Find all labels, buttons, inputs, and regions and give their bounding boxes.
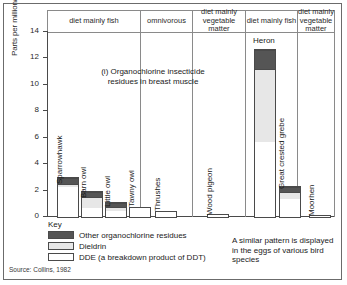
y-tick-label: 6	[35, 133, 39, 141]
bar-thrushes[interactable]	[155, 211, 177, 218]
y-tick-6: 6	[43, 137, 48, 138]
y-tick-label: 14	[30, 27, 39, 35]
y-tick-label: 2	[35, 186, 39, 194]
group-header-diet-mainly-fish-1: diet mainly fish	[47, 10, 140, 32]
bar-label-sparrowhawk: Sparrowhawk	[56, 136, 64, 184]
y-tick-0: 0	[43, 216, 48, 217]
group-header-label: diet mainly fish	[69, 17, 119, 25]
legend-item-dieldrin[interactable]: Dieldrin	[48, 241, 206, 251]
group-header-label: diet mainly vegetable matter	[298, 8, 334, 33]
bar-heron[interactable]	[254, 49, 276, 218]
bar-segment-dde	[208, 215, 228, 217]
bar-segment-dde	[310, 216, 330, 217]
bar-label-wood-pigeon: Wood pigeon	[206, 168, 214, 215]
y-tick-label: 4	[35, 159, 39, 167]
bar-segment-dde	[130, 208, 150, 217]
group-header-label: omnivorous	[147, 17, 186, 25]
bar-segment-dde	[82, 208, 102, 217]
side-note: A similar pattern is displayed in the eg…	[232, 236, 336, 265]
bar-segment-other	[255, 50, 275, 69]
y-tick-12: 12	[43, 57, 48, 58]
bar-label-heron: Heron	[253, 37, 275, 45]
plot-area: 14 12 10 8 6 4 2 0 (i) Organochlorine in…	[47, 31, 335, 219]
y-tick-label: 10	[30, 80, 39, 88]
bar-segment-dieldrin	[280, 192, 300, 199]
bar-great-crested-grebe[interactable]	[279, 186, 301, 218]
y-tick-label: 0	[35, 212, 39, 220]
group-header-omnivorous: omnivorous	[140, 10, 192, 32]
group-header-label: diet mainly fish	[247, 17, 297, 25]
y-axis-title: Parts per million/ppm by weight	[10, 0, 19, 56]
legend-title: Key	[48, 220, 206, 229]
source-caption: Source: Collins, 1982	[9, 266, 71, 273]
y-tick-4: 4	[43, 163, 48, 164]
y-tick-label: 12	[30, 53, 39, 61]
bar-label-tawny-owl: Tawny owl	[128, 170, 136, 207]
bar-label-thrushes: Thrushes	[154, 178, 162, 211]
legend: Key Other organochlorine residues Dieldr…	[48, 220, 206, 263]
bar-segment-dieldrin	[82, 197, 102, 209]
y-tick-14: 14	[43, 31, 48, 32]
bar-tawny-owl[interactable]	[129, 207, 151, 218]
bar-segment-dde	[255, 142, 275, 217]
bar-label-barn-owl: Barn owl	[80, 167, 88, 198]
legend-swatch-dde-icon	[48, 253, 74, 261]
y-tick-2: 2	[43, 190, 48, 191]
figure-frame: diet mainly fish omnivorous diet mainly …	[3, 3, 342, 280]
group-separator-1	[140, 31, 141, 217]
legend-label-other: Other organochlorine residues	[79, 231, 187, 240]
bar-segment-dieldrin	[255, 69, 275, 142]
group-separator-3	[245, 31, 246, 217]
bar-label-great-crested-grebe: Great crested grebe	[278, 118, 286, 189]
legend-label-dieldrin: Dieldrin	[79, 242, 106, 251]
legend-swatch-dieldrin-icon	[48, 242, 74, 250]
diet-group-header-band: diet mainly fish omnivorous diet mainly …	[47, 10, 335, 32]
y-tick-label: 8	[35, 106, 39, 114]
bar-segment-dde	[156, 212, 176, 217]
group-header-diet-mainly-fish-2: diet mainly fish	[245, 10, 297, 32]
bar-label-little-owl: Little owl	[104, 176, 112, 207]
group-header-diet-mainly-vegetable-2: diet mainly vegetable matter	[297, 10, 335, 32]
plot-right-edge	[334, 31, 335, 217]
bar-segment-dde	[106, 211, 126, 217]
bar-segment-dde	[280, 199, 300, 217]
bar-label-moorhen: Moorhen	[308, 184, 316, 216]
legend-item-dde[interactable]: DDE (a breakdown product of DDT)	[48, 252, 206, 262]
legend-label-dde: DDE (a breakdown product of DDT)	[79, 253, 206, 262]
group-separator-2	[192, 31, 193, 217]
group-header-diet-mainly-vegetable-1: diet mainly vegetable matter	[192, 10, 245, 32]
y-tick-8: 8	[43, 110, 48, 111]
y-tick-10: 10	[43, 84, 48, 85]
legend-swatch-other-icon	[48, 231, 74, 239]
bar-segment-dde	[58, 187, 78, 217]
group-header-label: diet mainly vegetable matter	[193, 8, 245, 33]
plot-annotation: (i) Organochlorine insecticide residues …	[99, 67, 207, 87]
legend-item-other[interactable]: Other organochlorine residues	[48, 230, 206, 240]
